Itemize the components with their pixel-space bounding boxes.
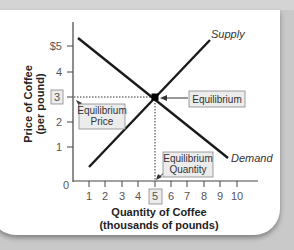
x-axis-title-line1: Quantity of Coffee [111,206,206,218]
equilibrium-callout: Equilibrium [160,91,245,107]
equilibrium-quantity-callout: Equilibrium Quantity [156,152,213,180]
x-ticks [89,181,237,187]
x-tick-2: 2 [102,190,108,202]
x-axis-title-line2: (thousands of pounds) [99,219,218,231]
eq-qty-line1: Equilibrium [163,153,212,164]
x-tick-10: 10 [231,190,243,202]
supply-demand-chart: $5 4 3 2 1 0 1 2 3 4 5 6 7 8 9 10 [0,0,294,250]
origin-label: 0 [63,179,69,191]
y-tick-4: 4 [56,66,62,78]
equilibrium-price-callout: Equilibrium Price [76,100,127,129]
y-tick-2: 2 [56,116,62,128]
x-tick-labels: 1 2 3 4 5 6 7 8 9 10 [86,189,243,204]
y-axis-title: Price of Coffee (per pound) [22,65,46,143]
arrow-left-icon [160,95,167,101]
y-axis-title-line1: Price of Coffee [22,65,34,143]
y-tick-5: $5 [50,40,62,52]
x-tick-8: 8 [201,190,207,202]
y-tick-1: 1 [56,141,62,153]
y-tick-labels: $5 4 3 2 1 0 [50,40,69,191]
y-axis-title-line2: (per pound) [34,73,46,134]
x-tick-5: 5 [152,190,158,202]
x-tick-4: 4 [135,190,141,202]
x-tick-9: 9 [217,190,223,202]
y-ticks [67,46,73,147]
x-tick-6: 6 [168,190,174,202]
eq-price-line1: Equilibrium [77,105,126,116]
eq-qty-line2: Quantity [169,164,206,175]
x-tick-1: 1 [86,190,92,202]
equilibrium-callout-label: Equilibrium [192,94,241,105]
demand-label: Demand [231,152,273,164]
x-tick-3: 3 [119,190,125,202]
equilibrium-point [152,94,159,101]
supply-label: Supply [211,28,246,40]
y-tick-3: 3 [54,91,60,103]
x-tick-7: 7 [184,190,190,202]
eq-price-line2: Price [91,116,114,127]
